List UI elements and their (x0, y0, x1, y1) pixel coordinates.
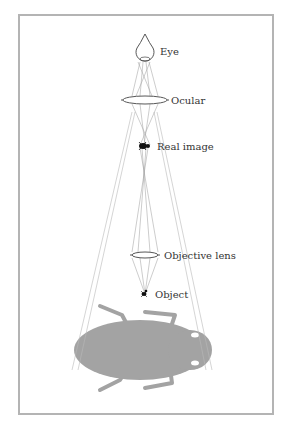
ocular-lens (123, 96, 167, 104)
label-real-image: Real image (157, 142, 214, 152)
inner-rays (132, 62, 158, 294)
label-objective-lens: Objective lens (164, 251, 236, 261)
objective-lens (132, 252, 158, 258)
label-eye: Eye (160, 47, 179, 57)
virtual-image-beetle (74, 306, 212, 390)
microscope-diagram (0, 0, 289, 427)
label-object: Object (155, 290, 188, 300)
label-ocular: Ocular (171, 96, 205, 106)
object-bug (141, 290, 147, 297)
